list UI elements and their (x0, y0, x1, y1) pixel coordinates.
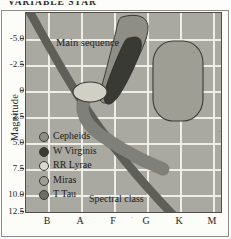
legend-swatch-t-tau (39, 190, 49, 200)
x-tick-label: G (136, 215, 156, 226)
y-tick-mark (20, 142, 24, 143)
legend-label-cepheids: Cepheids (53, 130, 90, 141)
legend-swatch-rr-lyrae (39, 161, 49, 171)
legend-swatch-miras (39, 176, 49, 186)
legend-label-w-virginis: W Virginis (53, 145, 97, 156)
legend-label-t-tau: T Tau (53, 188, 76, 199)
y-tick-mark (20, 168, 24, 169)
figure-title: VARIABLE STAR (8, 0, 97, 7)
y-tick-mark (20, 64, 24, 65)
legend-swatch-w-virginis (39, 147, 49, 157)
legend-item-t-tau: T Tau (39, 188, 149, 203)
legend-item-w-virginis: W Virginis (39, 145, 149, 160)
legend-label-miras: Miras (53, 174, 76, 185)
y-tick-mark (20, 194, 24, 195)
x-tick-label: F (103, 215, 123, 226)
main-sequence-annotation: Main sequence (56, 37, 119, 48)
x-tick-label: B (37, 215, 57, 226)
y-tick-mark (20, 211, 24, 212)
legend-swatch-cepheids (39, 132, 49, 142)
x-tick-label: M (202, 215, 222, 226)
y-axis-title: Magnitude (9, 83, 20, 153)
legend-item-miras: Miras (39, 174, 149, 189)
y-tick-mark (20, 116, 24, 117)
legend-item-rr-lyrae: RR Lyrae (39, 159, 149, 174)
plot-panel: Main sequence Spectral class Cepheids W … (25, 12, 222, 213)
x-axis: B A F G K M (25, 215, 222, 231)
legend-label-rr-lyrae: RR Lyrae (53, 159, 92, 170)
legend: Cepheids W Virginis RR Lyrae Miras T Tau (39, 130, 149, 203)
x-tick-label: K (169, 215, 189, 226)
y-tick-mark (20, 38, 24, 39)
legend-item-cepheids: Cepheids (39, 130, 149, 145)
region-miras (153, 41, 203, 121)
y-tick-mark (20, 90, 24, 91)
region-rr-lyrae (73, 82, 107, 102)
hr-diagram-figure: VARIABLE STAR (0, 0, 231, 239)
x-tick-label: A (70, 215, 90, 226)
